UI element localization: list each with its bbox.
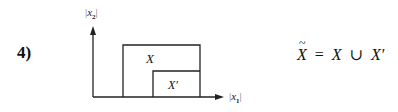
x-axis-arrow-icon <box>215 94 224 100</box>
formula-equals: = <box>311 46 328 63</box>
formula-term1: X <box>332 46 342 63</box>
y-label-bar-right: | <box>96 6 98 18</box>
union-formula: X = X ∪ X′ <box>297 45 384 64</box>
x-label-bar-right: | <box>240 90 242 102</box>
outer-set-label: X <box>146 51 154 67</box>
inner-set-label: X′ <box>168 78 178 93</box>
x-axis-label: |x1| <box>229 90 242 105</box>
formula-lhs-tilde: X <box>297 46 307 64</box>
formula-union: ∪ <box>346 46 367 63</box>
y-axis-arrow-icon <box>90 26 96 35</box>
y-axis-label: |x2| <box>85 6 98 21</box>
formula-term2: X′ <box>371 46 384 63</box>
